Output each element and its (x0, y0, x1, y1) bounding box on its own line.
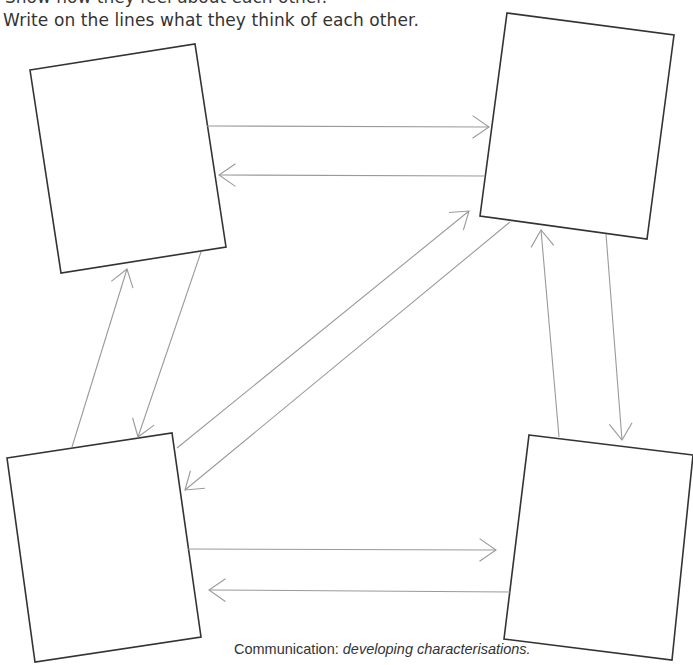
arrow-line-top-left-to-bottom-left (133, 252, 201, 437)
character-box-top-left[interactable] (30, 44, 226, 273)
footer-label: Communication: (234, 641, 339, 657)
arrow-line-top-right-to-bottom-right (606, 234, 632, 440)
relationship-diagram (0, 0, 693, 665)
arrow-line-bottom-left-to-bottom-right (188, 539, 496, 562)
character-boxes (7, 13, 693, 662)
arrow-line-bottom-right-to-bottom-left (209, 579, 510, 602)
arrow-line-bottom-left-to-top-left (72, 269, 133, 447)
character-box-top-right[interactable] (480, 13, 674, 239)
arrow-line-top-right-to-top-left (219, 164, 485, 187)
character-box-bottom-right[interactable] (504, 435, 693, 660)
arrow-line-top-left-to-top-right (207, 116, 489, 139)
arrow-line-bottom-right-to-top-right (531, 230, 559, 437)
character-box-bottom-left[interactable] (7, 433, 201, 662)
footer-caption: Communication: developing characterisati… (234, 641, 531, 657)
footer-subtitle: developing characterisations. (343, 641, 531, 657)
arrow-line-top-right-to-bottom-left (185, 222, 510, 490)
